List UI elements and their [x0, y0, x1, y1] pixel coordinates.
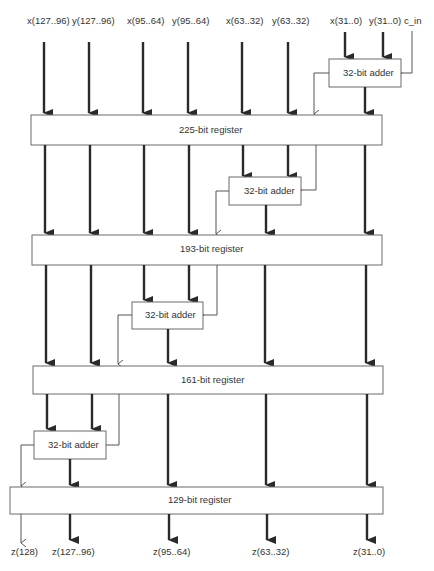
adder-1: 32-bit adder: [229, 177, 301, 205]
input-labels: x(127..96) y(127..96) x(95..64) y(95..64…: [27, 15, 421, 26]
output-arrows: [21, 514, 367, 543]
register-225: 225-bit register: [31, 115, 382, 145]
output-label-z127-96: z(127..96): [52, 546, 95, 557]
input-label-x95-64: x(95..64): [127, 15, 165, 26]
input-label-y31-0: y(31..0): [369, 15, 401, 26]
output-labels: z(128) z(127..96) z(95..64) z(63..32) z(…: [11, 546, 385, 557]
input-label-y127-96: y(127..96): [72, 15, 115, 26]
register-193-label: 193-bit register: [180, 243, 243, 254]
register-225-label: 225-bit register: [179, 124, 242, 135]
adder-1-label: 32-bit adder: [244, 185, 295, 196]
adder-2: 32-bit adder: [132, 302, 203, 329]
input-label-y95-64: y(95..64): [172, 15, 210, 26]
input-label-c-in: c_in: [404, 15, 421, 26]
output-label-z63-32: z(63..32): [252, 546, 290, 557]
adder-0: 32-bit adder: [329, 59, 401, 87]
adder-3: 32-bit adder: [34, 431, 106, 459]
adder-0-label: 32-bit adder: [343, 67, 394, 78]
input-label-x63-32: x(63..32): [226, 15, 264, 26]
register-193: 193-bit register: [32, 235, 382, 265]
output-label-z95-64: z(95..64): [153, 546, 191, 557]
input-label-x31-0: x(31..0): [330, 15, 362, 26]
register-161-label: 161-bit register: [181, 374, 244, 385]
input-label-x127-96: x(127..96): [27, 15, 70, 26]
input-label-y63-32: y(63..32): [272, 15, 310, 26]
register-129: 129-bit register: [10, 487, 383, 514]
adder-3-label: 32-bit adder: [48, 439, 99, 450]
adder-pipeline-diagram: x(127..96) y(127..96) x(95..64) y(95..64…: [0, 0, 434, 571]
output-label-z31-0: z(31..0): [353, 546, 385, 557]
register-161: 161-bit register: [33, 366, 383, 394]
adder-2-label: 32-bit adder: [145, 309, 196, 320]
register-129-label: 129-bit register: [168, 494, 231, 505]
output-label-z128: z(128): [11, 546, 38, 557]
